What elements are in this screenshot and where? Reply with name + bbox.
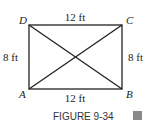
figure-caption: FIGURE 9-34 <box>53 111 114 122</box>
top-side-label: 12 ft <box>65 11 85 23</box>
rectangle-diagram: D C A B 12 ft 12 ft 8 ft 8 ft FIGURE 9-3… <box>0 0 149 127</box>
vertex-d-label: D <box>18 14 27 26</box>
vertex-b-label: B <box>126 88 133 100</box>
right-side-label: 8 ft <box>128 51 143 63</box>
end-marker-icon <box>133 111 142 120</box>
left-side-label: 8 ft <box>3 51 18 63</box>
vertex-c-label: C <box>126 14 134 26</box>
vertex-a-label: A <box>18 88 26 100</box>
bottom-side-label: 12 ft <box>65 92 85 104</box>
